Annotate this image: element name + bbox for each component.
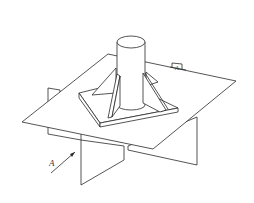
view-arrow-label: A	[48, 158, 55, 168]
section-mark-label: A	[174, 65, 179, 71]
view-arrow-a: A	[48, 152, 75, 173]
column-base-drawing: A A	[0, 0, 254, 203]
column-top	[117, 36, 145, 48]
column-cylinder	[117, 36, 145, 110]
front-vertical-plate	[81, 140, 124, 185]
